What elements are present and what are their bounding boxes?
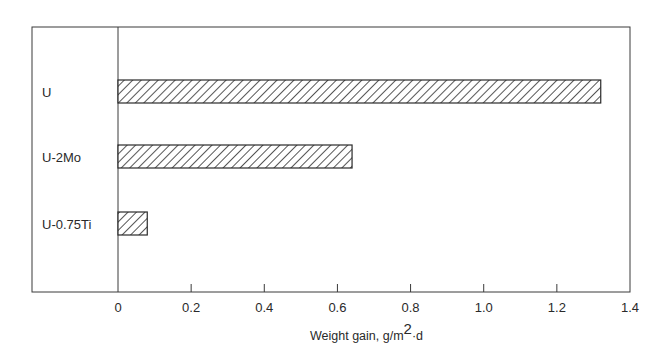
category-labels: UU-2MoU-0.75Ti (42, 85, 91, 232)
x-axis-tick-labels: 00.20.40.60.81.01.21.4 (114, 300, 639, 315)
category-label: U (42, 85, 51, 100)
bar-chart: 00.20.40.60.81.01.21.4 UU-2MoU-0.75Ti We… (0, 0, 670, 359)
x-tick-label: 1.2 (548, 300, 566, 315)
x-axis-title: Weight gain, g/m2·d (310, 320, 423, 343)
x-tick-label: 0.2 (182, 300, 200, 315)
x-tick-label: 0.8 (402, 300, 420, 315)
x-axis-ticks (191, 284, 557, 292)
x-tick-label: 0 (114, 300, 121, 315)
bars (118, 80, 601, 235)
bar-u (118, 80, 601, 103)
bar-u-0-75ti (118, 212, 147, 235)
x-tick-label: 0.4 (255, 300, 273, 315)
x-tick-label: 0.6 (328, 300, 346, 315)
x-tick-label: 1.4 (621, 300, 639, 315)
category-label: U-2Mo (42, 150, 81, 165)
category-label: U-0.75Ti (42, 217, 91, 232)
bar-u-2mo (118, 145, 352, 168)
x-tick-label: 1.0 (475, 300, 493, 315)
